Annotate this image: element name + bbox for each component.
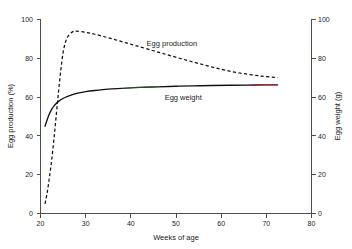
x-axis-title: Weeks of age [153,233,199,242]
right-tick-label-20: 20 [318,171,326,178]
x-tick-label-60: 60 [217,220,225,227]
axis-bottom: 20 30 40 50 60 70 80 Weeks of age [37,214,316,243]
right-tick-label-40: 40 [318,133,326,140]
left-tick-label-40: 40 [25,133,33,140]
bottom-axis-ticks [41,214,312,218]
x-tick-label-80: 80 [308,220,316,227]
left-axis-ticks [37,20,41,214]
x-tick-label-20: 20 [37,220,45,227]
x-tick-label-30: 30 [82,220,90,227]
x-tick-label-70: 70 [262,220,270,227]
right-axis-title: Egg weight (g) [333,91,342,140]
egg-weight-label: Egg weight [165,93,203,102]
right-tick-label-0: 0 [318,210,322,217]
series-annotations: Egg production Egg weight [147,39,203,102]
axis-right: 100 80 60 40 20 0 Egg weight (g) [312,16,343,217]
egg-production-curve [45,31,278,204]
x-tick-label-50: 50 [172,220,180,227]
left-tick-label-60: 60 [25,94,33,101]
series-group [45,31,278,204]
egg-production-weight-chart: 100 80 60 40 20 0 Egg production (%) 100… [0,0,352,249]
right-tick-label-100: 100 [318,16,330,23]
egg-weight-curve [45,85,278,126]
left-tick-label-0: 0 [29,210,33,217]
egg-production-label: Egg production [147,39,197,48]
right-tick-label-80: 80 [318,55,326,62]
right-axis-ticks [312,20,316,214]
right-tick-label-60: 60 [318,94,326,101]
left-tick-label-100: 100 [21,16,33,23]
left-tick-label-20: 20 [25,171,33,178]
left-tick-label-80: 80 [25,55,33,62]
x-tick-label-40: 40 [127,220,135,227]
chart-container: 100 80 60 40 20 0 Egg production (%) 100… [0,0,352,249]
left-axis-title: Egg production (%) [6,83,15,148]
axis-left: 100 80 60 40 20 0 Egg production (%) [6,16,41,217]
